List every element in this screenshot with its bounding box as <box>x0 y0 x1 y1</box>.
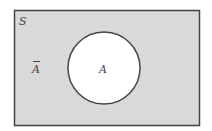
complement-label: A <box>31 63 40 76</box>
universe-label: S <box>19 15 27 28</box>
venn-diagram: S A A <box>0 0 212 131</box>
set-a-label: A <box>98 63 107 76</box>
